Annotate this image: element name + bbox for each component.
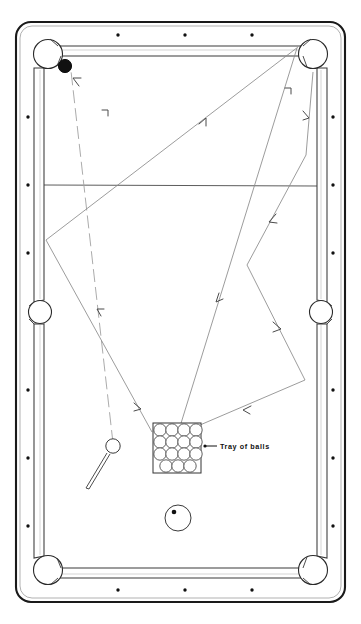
rail-spot-right-4 [331,388,334,391]
tray-ball [166,424,178,436]
rail-spot-left-6 [26,524,29,527]
top-right-corner-pocket [299,40,328,69]
rail-spot-right-3 [331,251,334,254]
rail-spot-right-1 [331,115,334,118]
tray-ball [166,436,178,448]
tray-ball [190,436,202,448]
tray-ball [154,448,166,460]
tray-of-balls-label: Tray of balls [220,442,270,451]
rail-spot-top-1 [116,33,119,36]
tray-ball [178,424,190,436]
rail-spot-left-5 [26,456,29,459]
tray-ball [178,436,190,448]
tray-ball [190,448,202,460]
billiard-table-figure: Tray of balls [0,0,361,624]
rail-spot-top-3 [250,33,253,36]
rail-spot-right-5 [331,456,334,459]
spotted-ball [165,505,191,531]
tray-ball [172,460,184,472]
tray-ball [154,424,166,436]
rail-spot-right-6 [331,524,334,527]
tray-ball [154,436,166,448]
rail-spot-left-4 [26,388,29,391]
rail-spot-bottom-3 [250,588,253,591]
tray-ball [160,460,172,472]
rail-spot-right-2 [331,183,334,186]
object-ball-black [58,59,71,72]
tray-ball [166,448,178,460]
rail-spot-bottom-1 [116,588,119,591]
billiard-table-svg: Tray of balls [0,0,361,624]
rail-spot-top-2 [183,33,186,36]
rail-spot-left-1 [26,115,29,118]
rail-spot-left-3 [26,251,29,254]
tray-ball [178,448,190,460]
ball-spot-mark [172,510,177,515]
cue-ball [106,439,120,453]
rail-spot-bottom-2 [183,588,186,591]
bottom-right-corner-pocket [299,556,328,585]
rail-spot-left-2 [26,183,29,186]
tray-ball [184,460,196,472]
tray-ball [190,424,202,436]
